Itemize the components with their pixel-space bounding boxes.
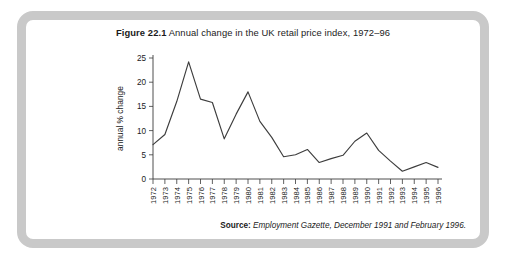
- y-tick-label: 10: [137, 127, 147, 136]
- source-note: Source: Employment Gazette, December 199…: [40, 221, 466, 230]
- x-tick-label: 1984: [292, 187, 301, 204]
- x-tick-label: 1974: [173, 187, 182, 204]
- x-tick-label: 1972: [149, 187, 158, 204]
- x-tick-label: 1991: [375, 187, 384, 204]
- x-tick-label: 1988: [339, 187, 348, 204]
- x-tick-label: 1977: [208, 187, 217, 204]
- y-axis: 0510152025: [137, 54, 153, 184]
- x-tick-label: 1990: [363, 187, 372, 204]
- x-tick-label: 1996: [434, 187, 443, 204]
- data-series-line: [153, 62, 438, 171]
- x-tick-label: 1994: [410, 187, 419, 204]
- source-label: Source:: [220, 221, 250, 230]
- y-axis-title: annual % change: [115, 86, 125, 151]
- figure-frame: Figure 22.1 Annual change in the UK reta…: [17, 11, 489, 248]
- x-tick-label: 1989: [351, 187, 360, 204]
- x-tick-label: 1993: [398, 187, 407, 204]
- x-tick-label: 1975: [185, 187, 194, 204]
- line-chart: 0510152025 19721973197419751976197719781…: [26, 46, 480, 216]
- x-tick-label: 1981: [256, 187, 265, 204]
- figure-number: Figure 22.1: [116, 27, 167, 38]
- x-tick-label: 1982: [268, 187, 277, 204]
- chart-plot-area: 0510152025 19721973197419751976197719781…: [26, 46, 480, 216]
- x-tick-label: 1995: [422, 187, 431, 204]
- y-tick-label: 0: [141, 175, 146, 184]
- source-text: Employment Gazette, December 1991 and Fe…: [253, 221, 466, 230]
- x-tick-label: 1979: [232, 187, 241, 204]
- x-tick-label: 1983: [280, 187, 289, 204]
- y-tick-label: 15: [137, 102, 147, 111]
- x-tick-label: 1987: [327, 187, 336, 204]
- x-tick-label: 1976: [197, 187, 206, 204]
- y-tick-label: 25: [137, 54, 147, 63]
- x-tick-label: 1973: [161, 187, 170, 204]
- figure-caption: Annual change in the UK retail price ind…: [169, 27, 390, 38]
- x-tick-label: 1985: [303, 187, 312, 204]
- y-tick-label: 20: [137, 78, 147, 87]
- figure-title: Figure 22.1 Annual change in the UK reta…: [26, 27, 480, 38]
- y-tick-label: 5: [141, 151, 146, 160]
- x-tick-label: 1986: [315, 187, 324, 204]
- x-tick-label: 1978: [220, 187, 229, 204]
- x-tick-label: 1980: [244, 187, 253, 204]
- x-axis: 1972197319741975197619771978197919801981…: [149, 179, 443, 204]
- x-tick-label: 1992: [387, 187, 396, 204]
- figure-inner: Figure 22.1 Annual change in the UK reta…: [26, 20, 480, 239]
